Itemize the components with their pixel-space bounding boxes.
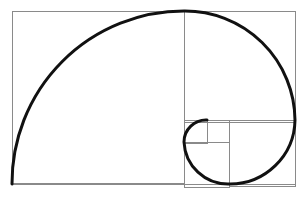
golden-spiral-diagram	[0, 0, 306, 198]
golden-square-6	[208, 121, 230, 143]
golden-rectangle-grid	[13, 12, 296, 188]
outer-rectangle	[13, 12, 296, 185]
golden-square-2	[185, 12, 296, 123]
golden-spiral-curve	[12, 11, 295, 184]
golden-square-1	[13, 12, 185, 184]
